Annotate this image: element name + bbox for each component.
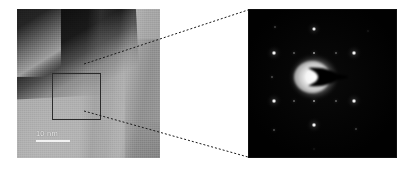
diffraction-spot: [266, 93, 283, 110]
diffraction-spot: [306, 117, 323, 134]
diffraction-spot: [332, 97, 340, 105]
diffraction-spot: [268, 73, 276, 81]
diffraction-spot: [271, 23, 279, 31]
diffraction-pattern-panel: [248, 9, 397, 158]
diffraction-spot: [270, 126, 278, 134]
diffraction-spot: [311, 146, 317, 152]
diffraction-spot: [309, 48, 319, 58]
diffraction-spot: [332, 49, 340, 57]
diffraction-spot: [352, 125, 360, 133]
diffraction-spot: [346, 45, 363, 62]
selected-area-box: [52, 73, 101, 120]
diffraction-spot: [290, 97, 298, 105]
diffraction-spot: [309, 96, 319, 106]
scale-bar-line: [36, 140, 70, 142]
scale-bar-label: 10 nm: [36, 129, 92, 138]
diffraction-pattern-graphic: [248, 9, 397, 158]
diffraction-spot: [365, 28, 371, 34]
diffraction-spot: [266, 45, 283, 62]
scale-bar: 10 nm: [36, 129, 92, 142]
tem-micrograph-panel: 10 nm: [17, 9, 160, 158]
figure-root: 10 nm: [0, 0, 405, 169]
diffraction-spot: [346, 93, 363, 110]
diffraction-spot: [306, 21, 322, 37]
diffraction-spot: [290, 49, 298, 57]
